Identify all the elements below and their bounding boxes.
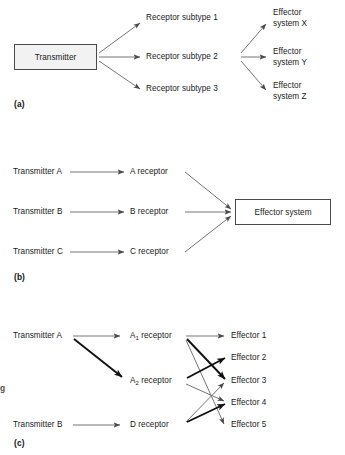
effector-system-box-label: Effector system <box>254 208 311 217</box>
effector-system-y-line2: system Y <box>273 58 307 67</box>
arrow-a1-receptor-to-effector-3 <box>187 339 225 379</box>
cropped-margin-fragment: g <box>0 383 7 397</box>
effector-3-label: Effector 3 <box>231 376 266 387</box>
receptor-subtype-3-label: Receptor subtype 3 <box>146 84 218 95</box>
a1-receptor-label: A1 receptor <box>130 331 172 344</box>
arrow-c-receptor-to-effector-system <box>185 216 231 252</box>
effector-system-y-label: Effectorsystem Y <box>273 47 335 68</box>
transmitter-b-label-c: Transmitter B <box>13 420 62 431</box>
effector-2-label: Effector 2 <box>231 353 266 364</box>
d-receptor-suffix: receptor <box>136 420 169 429</box>
effector-4-label: Effector 4 <box>231 398 266 409</box>
transmitter-a-label-b: Transmitter A <box>13 167 62 178</box>
arrow-a-receptor-to-effector-system <box>185 172 231 209</box>
a2-receptor-label: A2 receptor <box>130 376 172 389</box>
transmitter-a-label-c: Transmitter A <box>13 331 62 342</box>
transmitter-box-label: Transmitter <box>35 53 77 62</box>
arrow-a2-receptor-to-effector-2 <box>187 358 225 378</box>
arrow-transmitter-to-subtype3 <box>99 61 140 89</box>
effector-system-x-line2: system X <box>273 19 307 28</box>
panel-label-a: (a) <box>14 99 25 109</box>
arrow-subtype2-to-effector-x <box>241 24 266 53</box>
panel-label-c: (c) <box>14 438 25 448</box>
effector-5-label: Effector 5 <box>231 420 266 431</box>
c-receptor-label: C receptor <box>130 247 169 258</box>
a-receptor-label: A receptor <box>130 167 168 178</box>
effector-system-z-line1: Effector <box>273 81 301 90</box>
arrow-d-receptor-to-effector-3 <box>186 383 224 422</box>
a1-receptor-suffix: receptor <box>139 331 172 340</box>
effector-1-label: Effector 1 <box>231 331 266 342</box>
transmitter-b-label-b: Transmitter B <box>13 207 62 218</box>
effector-system-z-label: Effectorsystem Z <box>273 81 335 102</box>
effector-system-box: Effector system <box>235 199 331 225</box>
receptor-subtype-2-label: Receptor subtype 2 <box>146 52 218 63</box>
effector-system-x-label: Effectorsystem X <box>273 8 335 29</box>
b-receptor-label: B receptor <box>130 207 168 218</box>
panel-label-b: (b) <box>14 272 25 282</box>
transmitter-box-a: Transmitter <box>14 44 97 70</box>
arrow-a1-receptor-to-effector-5 <box>186 340 224 424</box>
effector-system-z-line2: system Z <box>273 92 307 101</box>
arrow-transmitter-to-subtype1 <box>99 23 140 53</box>
effector-system-x-line1: Effector <box>273 8 301 17</box>
arrow-transmitter-a-to-a2-receptor <box>74 339 122 377</box>
arrow-subtype2-to-effector-z <box>241 61 266 90</box>
effector-system-y-line1: Effector <box>273 47 301 56</box>
d-receptor-label: D receptor <box>130 420 169 433</box>
transmitter-c-label-b: Transmitter C <box>13 247 63 258</box>
receptor-subtype-1-label: Receptor subtype 1 <box>146 13 218 24</box>
receptor-signalling-diagram: Transmitter Receptor subtype 1 Receptor … <box>0 0 345 455</box>
a2-receptor-suffix: receptor <box>139 376 172 385</box>
arrow-a2-receptor-to-effector-4 <box>186 384 224 401</box>
